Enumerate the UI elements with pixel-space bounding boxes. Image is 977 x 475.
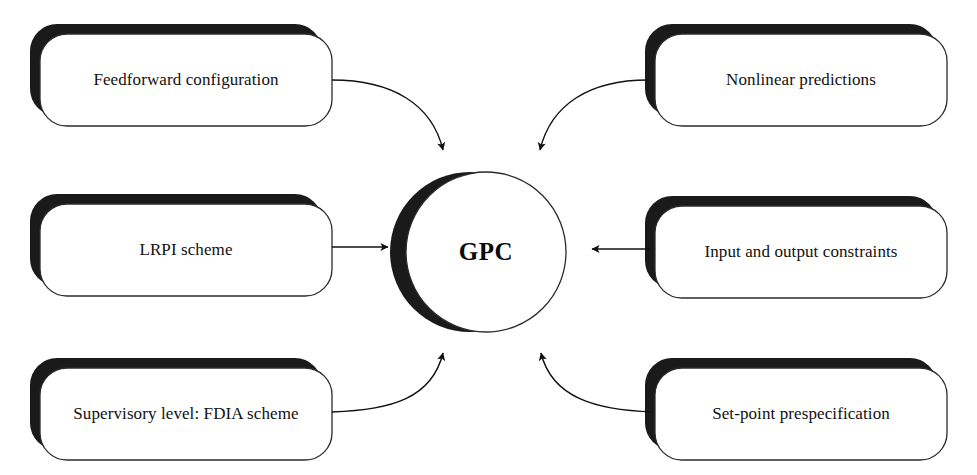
node-nonlinear-predictions[interactable]	[655, 34, 947, 126]
node-set-point-prespecification[interactable]	[655, 368, 947, 460]
node-lrpi-scheme[interactable]	[40, 204, 332, 296]
node-supervisory-level-fdia-scheme[interactable]	[40, 368, 332, 460]
connector-feedforward-to-gpc	[332, 80, 443, 150]
connector-nonlinear-to-gpc	[540, 80, 648, 150]
connector-setpoint-to-gpc	[541, 353, 653, 412]
node-gpc-hub[interactable]	[406, 172, 566, 332]
connector-fdia-to-gpc	[332, 353, 443, 412]
node-feedforward-configuration[interactable]	[40, 34, 332, 126]
node-input-and-output-constraints[interactable]	[655, 206, 947, 298]
diagram-canvas: Feedforward configuration LRPI scheme Su…	[0, 0, 977, 475]
